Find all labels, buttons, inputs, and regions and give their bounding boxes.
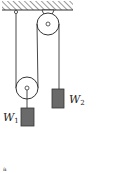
ceiling [2,1,73,10]
pulley-diagram: W1 W2 a [0,0,133,173]
weight-w1 [21,108,34,126]
middle-rope [37,24,38,88]
rope-anchor [14,10,17,13]
label-w2: W2 [69,93,85,107]
bottom-pulley-axle [25,86,29,90]
caption-label: a [3,165,7,172]
weight-w2 [52,89,64,108]
label-w1: W1 [3,111,19,125]
top-pulley-axle [46,22,50,26]
